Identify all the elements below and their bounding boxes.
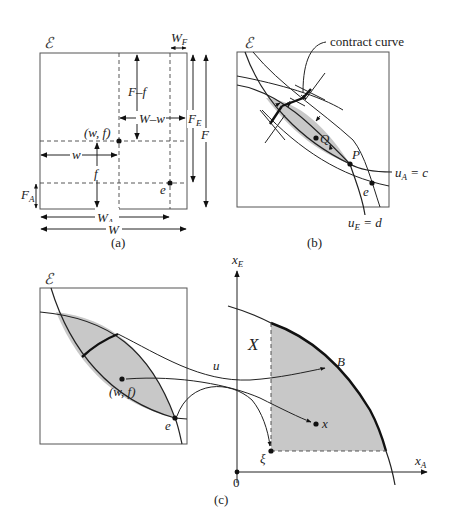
point-P [347,161,352,166]
tangent-line [305,73,325,100]
u-map-arrow-e [177,387,270,446]
improvement-arrow [316,116,320,121]
endowment-point-e [369,180,374,185]
F-minus-f-label: F–f [127,84,148,99]
WF-label: WF [171,30,188,47]
caption-b: (b) [307,235,322,250]
W-minus-w-label: W–w [139,111,165,126]
contract-curve-label: contract curve [330,34,404,49]
e-label: e [363,184,369,199]
point-wf-label: (w, f) [84,125,110,140]
endowment-point-e [167,180,172,185]
origin-point [235,470,240,475]
xE-axis-label: xE [231,252,244,269]
indifference-curve-uA-c [237,85,392,172]
panel-b: ℰ contract curve Q P e uA [237,34,428,250]
edgeworth-box-label: ℰ [244,35,255,51]
F-label: F [200,127,210,142]
point-wf [116,138,121,143]
point-wf-label: (w, f) [109,384,135,399]
lens-region [56,312,175,418]
panel-a: ℰ WF F–f W–w (w, f) w f FA e [20,30,212,250]
Q-label: Q [320,131,330,146]
origin-label: 0 [233,475,240,490]
x-label: x [321,416,328,431]
contract-curve-callout [303,42,326,92]
w-label: w [72,147,81,162]
xi-label: ξ [260,451,266,466]
point-Q [313,135,318,140]
feasible-region-X [271,323,386,451]
uA-c-label: uA = c [395,165,428,182]
xA-axis-label: xA [414,453,427,470]
uE-d-label: uE = d [348,215,382,232]
X-label: X [247,335,259,354]
FA-label: FA [20,187,35,204]
endowment-point-e [172,415,177,420]
caption-c: (c) [214,492,228,507]
edgeworth-box-label: ℰ [44,271,55,287]
e-label: e [160,182,166,197]
u-label: u [213,358,220,373]
utility-frontier [228,306,271,323]
P-label: P [351,147,360,162]
B-label: B [337,354,345,369]
point-wf [119,376,124,381]
caption-a: (a) [111,235,125,250]
lens-region [266,98,350,164]
point-x [313,421,318,426]
point-xi [268,448,273,453]
panel-c: ℰ (w, f) e xE xA 0 u X B [40,252,427,507]
diagram-canvas: ℰ WF F–f W–w (w, f) w f FA e [0,0,449,532]
utility-frontier [386,451,395,485]
edgeworth-box-label: ℰ [44,35,55,51]
e-label: e [165,418,171,433]
